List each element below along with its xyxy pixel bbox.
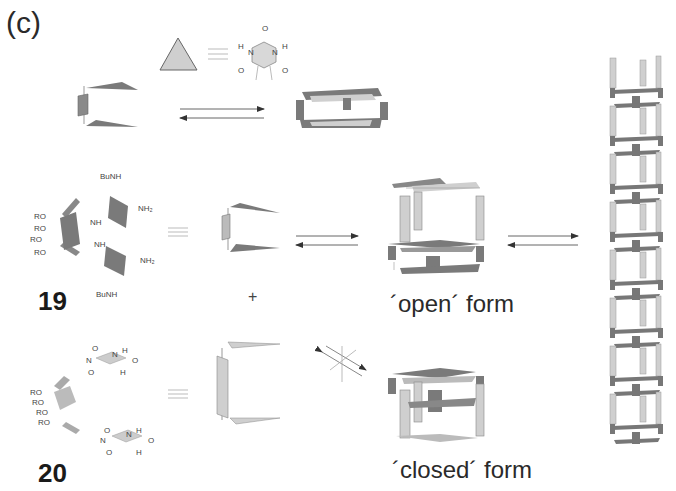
substituent-label: NH: [94, 240, 106, 249]
atom-label-n: N: [100, 436, 106, 445]
equilibrium-arrows-icon: [296, 236, 358, 245]
tweezer-monomer-icon: [78, 82, 138, 127]
equilibrium-arrows-icon: [180, 109, 264, 118]
equivalence-sign-icon: [168, 390, 188, 398]
atom-label-o: O: [132, 356, 138, 365]
atom-label-o: O: [104, 426, 110, 435]
substituent-label: RO: [38, 418, 50, 427]
substituent-label: BuNH: [96, 290, 117, 299]
blocked-equilibrium-icon: [322, 346, 366, 382]
closed-form-label: ´closed´ form: [392, 456, 532, 484]
tweezer-monomer-icon: [222, 203, 280, 252]
compound-number-19: 19: [38, 286, 67, 317]
substituent-label: RO: [36, 408, 48, 417]
dimer-assembly-icon: [296, 88, 388, 128]
triangle-symbol-icon: [160, 38, 197, 70]
atom-label-o: O: [238, 66, 244, 75]
atom-label-n: N: [272, 48, 278, 57]
atom-label-n: N: [248, 48, 254, 57]
substituent-label: NH₂: [140, 256, 155, 265]
equivalence-sign-icon: [168, 228, 188, 236]
long-tweezer-icon: [217, 342, 280, 424]
atom-label-o: O: [148, 436, 154, 445]
closed-form-cage-icon: [388, 368, 484, 442]
atom-label-n: N: [86, 356, 92, 365]
open-form-cage-icon: [388, 178, 484, 274]
equilibrium-arrows-icon: [508, 236, 578, 245]
substituent-label: RO: [32, 398, 44, 407]
open-form-label: ´open´ form: [390, 290, 514, 318]
compound-19-structure-icon: [60, 196, 128, 276]
compound-number-20: 20: [38, 458, 67, 489]
substituent-label: RO: [30, 388, 42, 397]
substituent-label: NH₂: [138, 204, 153, 213]
plus-sign: +: [248, 288, 257, 306]
atom-label-h: H: [120, 368, 126, 377]
substituent-label: RO: [34, 248, 46, 257]
supramolecular-polymer-column-icon: [610, 56, 663, 444]
atom-label-o: O: [92, 344, 98, 353]
atom-label-o: O: [282, 66, 288, 75]
substituent-label: RO: [30, 235, 42, 244]
compound-20-structure-icon: [54, 352, 142, 442]
substituent-label: NH: [90, 218, 102, 227]
equivalence-sign-icon: [208, 49, 228, 59]
atom-label-n: N: [112, 350, 118, 359]
substituent-label: BuNH: [100, 172, 121, 181]
atom-label-h: H: [122, 346, 128, 355]
atom-label-h: H: [136, 426, 142, 435]
substituent-label: RO: [34, 224, 46, 233]
substituent-label: RO: [34, 212, 46, 221]
atom-label-o: O: [106, 448, 112, 457]
atom-label-n: N: [126, 430, 132, 439]
atom-label-o: O: [262, 24, 268, 33]
atom-label-h: H: [282, 42, 288, 51]
atom-label-o: O: [88, 368, 94, 377]
atom-label-h: H: [136, 448, 142, 457]
atom-label-h: H: [238, 42, 244, 51]
